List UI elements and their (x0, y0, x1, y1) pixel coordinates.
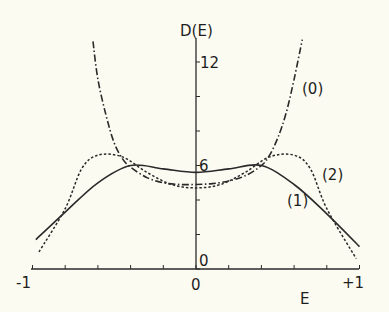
x-tick-label-minus1: -1 (16, 274, 31, 292)
curve-label-2: (2) (322, 166, 343, 184)
y-axis-title: D(E) (180, 22, 213, 40)
y-tick-label-six: 6 (199, 157, 209, 175)
axes (31, 38, 360, 269)
y-tick-label-twelve: 12 (200, 54, 219, 72)
x-tick-label-zero: 0 (191, 276, 201, 294)
x-tick-label-plus1: +1 (342, 274, 364, 292)
density-of-states-chart: D(E) E -1 0 +1 0 6 12 (0) (2) (1) (0, 0, 389, 312)
curve-label-1: (1) (287, 192, 308, 210)
curves (36, 40, 360, 259)
curve-2 (39, 154, 356, 259)
curve-label-0: (0) (302, 80, 323, 98)
y-tick-label-zero: 0 (199, 252, 209, 270)
curve-0 (93, 40, 302, 185)
x-axis-title: E (300, 290, 309, 308)
